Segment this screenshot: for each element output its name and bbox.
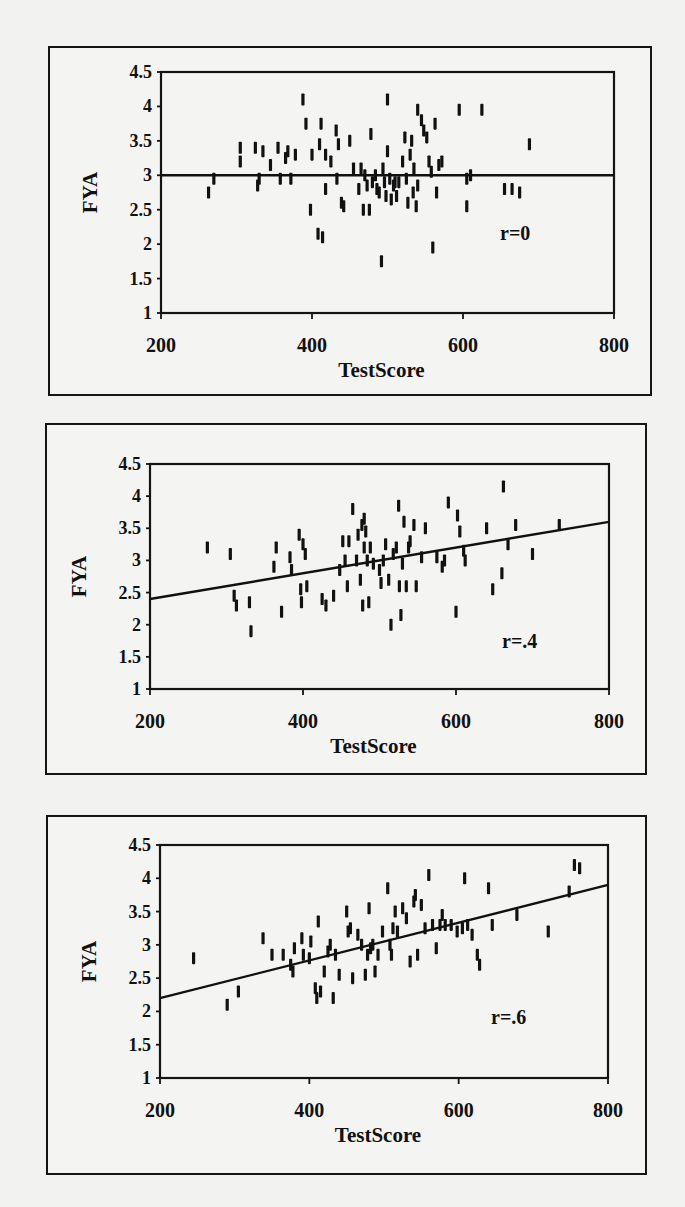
data-point bbox=[435, 942, 438, 954]
data-point bbox=[363, 513, 366, 525]
scatter-plot: 11.522.533.544.5200400600800TestScoreFYA… bbox=[50, 48, 654, 398]
data-point bbox=[239, 156, 242, 168]
data-point bbox=[304, 548, 307, 560]
data-point bbox=[423, 922, 426, 934]
data-point bbox=[510, 183, 513, 195]
data-point bbox=[338, 564, 341, 576]
data-point bbox=[420, 899, 423, 911]
data-point bbox=[415, 580, 418, 592]
data-point bbox=[491, 583, 494, 595]
data-point bbox=[329, 156, 332, 168]
data-point bbox=[317, 916, 320, 928]
data-point bbox=[305, 580, 308, 592]
scatter-plot: 11.522.533.544.5200400600800TestScoreFYA… bbox=[47, 425, 649, 777]
data-point bbox=[384, 538, 387, 550]
regression-line bbox=[160, 885, 608, 998]
data-point bbox=[454, 606, 457, 618]
data-point bbox=[425, 131, 428, 143]
scatter-plot: 11.522.533.544.5200400600800TestScoreFYA… bbox=[48, 817, 649, 1177]
data-point bbox=[466, 919, 469, 931]
data-point bbox=[321, 231, 324, 243]
data-point bbox=[386, 882, 389, 894]
data-point bbox=[270, 949, 273, 961]
y-tick-label: 2.5 bbox=[130, 200, 153, 220]
data-point bbox=[381, 162, 384, 174]
data-point bbox=[469, 169, 472, 181]
y-tick-label: 1.5 bbox=[129, 1035, 152, 1055]
x-tick-label: 400 bbox=[294, 1099, 324, 1121]
data-point bbox=[378, 187, 381, 199]
data-point bbox=[409, 535, 412, 547]
y-tick-label: 2 bbox=[132, 615, 141, 635]
data-point bbox=[316, 228, 319, 240]
data-point bbox=[310, 149, 313, 161]
data-point bbox=[324, 183, 327, 195]
data-point bbox=[192, 952, 195, 964]
data-point bbox=[391, 922, 394, 934]
data-point bbox=[416, 949, 419, 961]
data-point bbox=[363, 169, 366, 181]
data-point bbox=[269, 159, 272, 171]
data-point bbox=[414, 889, 417, 901]
data-point bbox=[398, 580, 401, 592]
data-point bbox=[387, 574, 390, 586]
data-point bbox=[382, 554, 385, 566]
data-point bbox=[397, 500, 400, 512]
data-point bbox=[235, 599, 238, 611]
data-point bbox=[347, 535, 350, 547]
data-point bbox=[300, 932, 303, 944]
data-point bbox=[366, 949, 369, 961]
data-point bbox=[444, 919, 447, 931]
y-tick-label: 4.5 bbox=[130, 62, 153, 82]
data-point bbox=[309, 204, 312, 216]
data-point bbox=[371, 939, 374, 951]
data-point bbox=[359, 574, 362, 586]
data-point bbox=[361, 599, 364, 611]
data-point bbox=[366, 180, 369, 192]
data-point bbox=[374, 169, 377, 181]
data-point bbox=[528, 138, 531, 150]
data-point bbox=[352, 162, 355, 174]
data-point bbox=[412, 519, 415, 531]
data-point bbox=[373, 965, 376, 977]
data-point bbox=[456, 926, 459, 938]
data-point bbox=[431, 919, 434, 931]
data-point bbox=[447, 497, 450, 509]
data-point bbox=[380, 255, 383, 267]
data-point bbox=[503, 183, 506, 195]
data-point bbox=[443, 554, 446, 566]
data-point bbox=[416, 104, 419, 116]
data-point bbox=[308, 952, 311, 964]
data-point bbox=[348, 135, 351, 147]
y-tick-label: 1 bbox=[143, 303, 152, 323]
data-point bbox=[334, 949, 337, 961]
data-point bbox=[401, 156, 404, 168]
data-point bbox=[282, 949, 285, 961]
data-point bbox=[364, 526, 367, 538]
x-tick-label: 600 bbox=[444, 1099, 474, 1121]
data-point bbox=[405, 173, 408, 185]
data-point bbox=[272, 561, 275, 573]
chart-panel-3: 11.522.533.544.5200400600800TestScoreFYA… bbox=[46, 815, 647, 1175]
data-point bbox=[362, 204, 365, 216]
data-point bbox=[258, 173, 261, 185]
y-tick-label: 4.5 bbox=[129, 835, 152, 855]
data-point bbox=[351, 503, 354, 515]
data-point bbox=[321, 593, 324, 605]
data-point bbox=[319, 118, 322, 130]
x-tick-label: 800 bbox=[594, 710, 624, 732]
data-point bbox=[491, 919, 494, 931]
data-point bbox=[531, 548, 534, 560]
data-point bbox=[346, 580, 349, 592]
correlation-label: r=0 bbox=[500, 222, 530, 244]
data-point bbox=[392, 548, 395, 560]
data-point bbox=[390, 193, 393, 205]
x-tick-label: 200 bbox=[135, 710, 165, 732]
correlation-label: r=.4 bbox=[502, 630, 537, 652]
data-point bbox=[309, 936, 312, 948]
data-point bbox=[427, 156, 430, 168]
data-point bbox=[229, 548, 232, 560]
data-point bbox=[299, 583, 302, 595]
data-point bbox=[302, 949, 305, 961]
x-axis-title: TestScore bbox=[330, 734, 416, 758]
